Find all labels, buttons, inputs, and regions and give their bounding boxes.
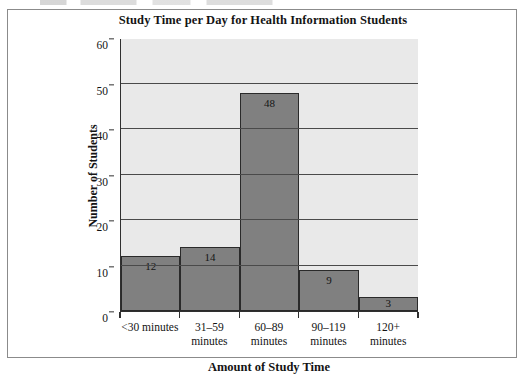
x-tick-label: 60–89minutes (239, 312, 299, 358)
x-tick-label-line: 120+ (358, 321, 418, 335)
gridline-50 (121, 83, 418, 84)
bar-value-label: 14 (180, 251, 239, 263)
y-tick-mark-50 (109, 84, 114, 85)
y-tick-mark-30 (109, 175, 114, 176)
x-tick-label-line: 31–59 (180, 321, 240, 335)
bar-group: 9 (299, 39, 358, 311)
x-axis-ticks: <30 minutes31–59minutes60–89minutes90–11… (120, 312, 418, 358)
bar-group: 14 (180, 39, 239, 311)
x-tick-label-line: minutes (180, 335, 240, 349)
x-tick-mark (179, 312, 180, 318)
y-axis-ticks: 0102030405060 (80, 39, 114, 312)
bar-value-label: 48 (240, 97, 299, 109)
x-axis-title: Amount of Study Time (120, 360, 418, 375)
bar-series: 12144893 (121, 39, 418, 311)
bar (240, 93, 299, 311)
x-tick-label-line: minutes (239, 335, 299, 349)
bar-group: 48 (240, 39, 299, 311)
bar-value-label: 3 (359, 297, 418, 309)
bar-value-label: 9 (299, 274, 358, 286)
y-tick-mark-40 (109, 129, 114, 130)
scan-artifact-top (40, 0, 370, 5)
figure-frame: Study Time per Day for Health Informatio… (7, 9, 517, 358)
bar-group: 3 (359, 39, 418, 311)
x-tick-label: 120+minutes (358, 312, 418, 358)
y-tick-mark-10 (109, 266, 114, 267)
bar-value-label: 12 (121, 260, 180, 272)
y-tick-mark-0 (109, 311, 114, 312)
x-tick-label: 90–119minutes (299, 312, 359, 358)
x-tick-mark (358, 312, 359, 318)
x-tick-label: 31–59minutes (180, 312, 240, 358)
gridline-20 (121, 219, 418, 220)
x-tick-mark (239, 312, 240, 318)
x-tick-mark (298, 312, 299, 318)
bar-group: 12 (121, 39, 180, 311)
gridline-30 (121, 174, 418, 175)
x-tick-label-line: minutes (358, 335, 418, 349)
plot-area: 12144893 (120, 39, 418, 312)
gridline-10 (121, 265, 418, 266)
x-tick-mark (119, 312, 120, 318)
chart-title: Study Time per Day for Health Informatio… (8, 13, 518, 28)
x-tick-label-line: minutes (299, 335, 359, 349)
x-tick-label-line: <30 minutes (120, 321, 180, 335)
x-tick-mark (417, 312, 418, 318)
y-tick-mark-60 (109, 38, 114, 39)
x-tick-label-line: 90–119 (299, 321, 359, 335)
y-tick-mark-20 (109, 220, 114, 221)
gridline-40 (121, 128, 418, 129)
x-tick-label: <30 minutes (120, 312, 180, 358)
x-tick-label-line: 60–89 (239, 321, 299, 335)
plot-region: Number of Students 0102030405060 1214489… (120, 39, 418, 312)
